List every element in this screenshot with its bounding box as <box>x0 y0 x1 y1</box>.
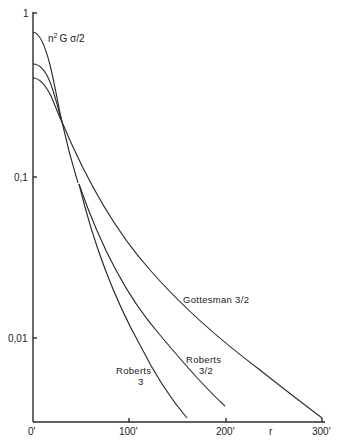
label-gottesman: Gottesman 3/2 <box>183 294 249 305</box>
label-roberts-3-2-line1: Roberts <box>186 354 221 365</box>
x-tick-label-200: 200' <box>216 426 235 437</box>
y-tick-label-0.1: 0,1 <box>14 172 28 183</box>
chart: 1 0,1 0,01 0' 100' 200' r 300' n2G σ/2 G… <box>0 0 348 447</box>
label-roberts-3-line2: 3 <box>138 376 144 387</box>
x-tick-label-300: 300' <box>312 426 331 437</box>
curve-roberts-3 <box>79 184 187 418</box>
x-axis-label: r <box>269 426 273 437</box>
y-tick-label-0.01: 0,01 <box>8 333 28 344</box>
x-tick-label-100: 100' <box>119 426 138 437</box>
y-axis-label: n2G σ/2 <box>48 32 85 44</box>
label-roberts-3-line1: Roberts <box>116 365 151 376</box>
y-tick-label-1: 1 <box>23 8 29 19</box>
x-tick-label-0: 0' <box>28 426 36 437</box>
curve-gottesman-3-2 <box>62 122 322 418</box>
label-roberts-3-2-line2: 3/2 <box>199 365 213 376</box>
